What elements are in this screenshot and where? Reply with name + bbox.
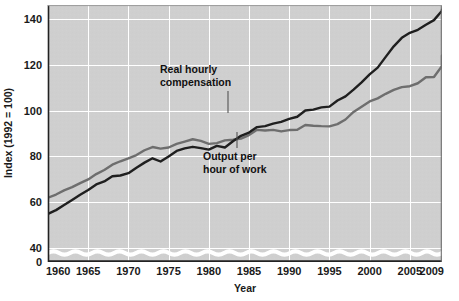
x-tick-label-1985: 1985 xyxy=(237,265,261,277)
y-tick-label-80: 80 xyxy=(30,150,42,162)
x-tick-label-1965: 1965 xyxy=(76,265,100,277)
annotation-line-2: hour of work xyxy=(203,163,267,175)
x-tick-label-2000: 2000 xyxy=(357,265,381,277)
y-tick-label-0: 0 xyxy=(36,256,42,268)
chart-figure: 0406080100120140 19601965197019751980198… xyxy=(0,0,459,301)
x-axis-title: Year xyxy=(234,282,256,294)
y-tick-label-120: 120 xyxy=(24,59,42,71)
x-tick-label-1980: 1980 xyxy=(197,265,221,277)
x-tick-label-1975: 1975 xyxy=(156,265,180,277)
y-axis-title: Index (1992 = 100) xyxy=(2,88,14,178)
y-tick-label-40: 40 xyxy=(30,242,42,254)
y-tick-label-100: 100 xyxy=(24,105,42,117)
annotation-line-2: compensation xyxy=(160,76,231,88)
line-chart-svg: 0406080100120140 19601965197019751980198… xyxy=(0,0,459,301)
y-tick-label-140: 140 xyxy=(24,13,42,25)
x-tick-label-1960: 1960 xyxy=(46,265,70,277)
annotation-line-1: Output per xyxy=(203,150,257,162)
x-tick-label-1970: 1970 xyxy=(116,265,140,277)
x-tick-label-2005: 2005 xyxy=(398,265,422,277)
x-tick-label-1990: 1990 xyxy=(277,265,301,277)
x-tick-label-2009: 2009 xyxy=(420,265,444,277)
x-tick-label-1995: 1995 xyxy=(317,265,341,277)
annotation-line-1: Real hourly xyxy=(160,63,217,75)
y-tick-label-60: 60 xyxy=(30,196,42,208)
